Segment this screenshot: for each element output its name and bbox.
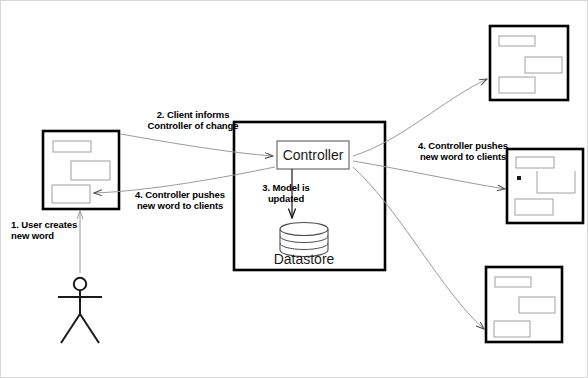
user-stick-figure — [58, 278, 102, 343]
cursor-dot-icon — [517, 176, 521, 180]
step-4-right-label: 4. Controller pushes new word to clients — [403, 140, 523, 162]
client-window-left — [43, 131, 119, 209]
controller-label: Controller — [277, 147, 349, 163]
step-2-label: 2. Client informs Controller of change — [126, 109, 260, 131]
step-3-label: 3. Model is updated — [250, 182, 322, 204]
client-window-bottom-right — [486, 267, 562, 342]
client-window-top-right — [490, 26, 568, 100]
datastore-label: Datastore — [256, 251, 352, 267]
diagram-canvas: Controller Datastore 1. User creates new… — [0, 0, 588, 378]
step-1-label: 1. User creates new word — [11, 219, 77, 241]
step-4-left-label: 4. Controller pushes new word to clients — [120, 189, 240, 211]
